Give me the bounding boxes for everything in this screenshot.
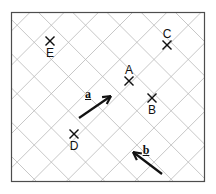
- point-label-c: C: [163, 28, 172, 40]
- figure-canvas: [0, 0, 216, 194]
- point-label-d: D: [70, 140, 79, 152]
- point-label-a: A: [125, 64, 133, 76]
- vector-label-a: a: [85, 88, 91, 100]
- vector-label-b: b: [143, 144, 150, 156]
- vector-grid-figure: ECABD ab: [0, 0, 216, 194]
- point-label-e: E: [46, 47, 54, 59]
- point-label-b: B: [148, 104, 156, 116]
